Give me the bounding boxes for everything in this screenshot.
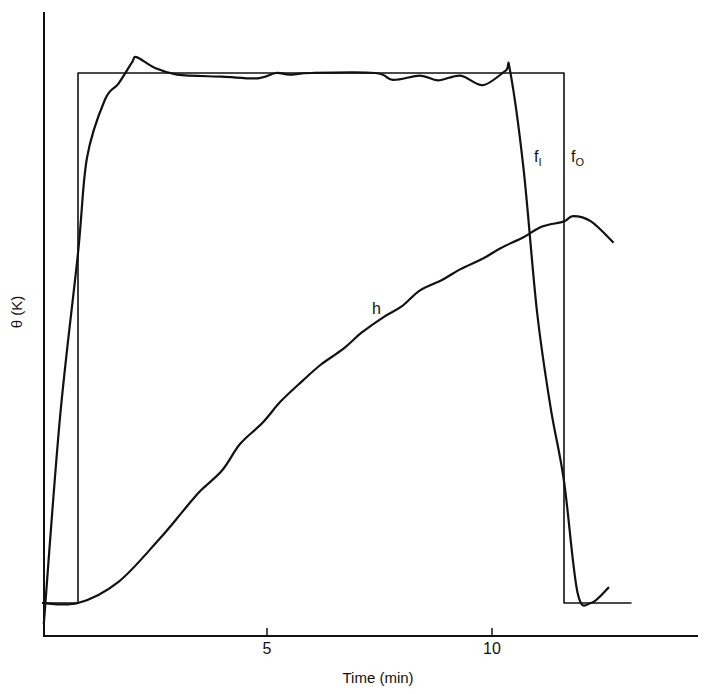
x-tick-label-10: 10 xyxy=(483,640,501,658)
y-axis-label: θ (K) xyxy=(8,296,25,329)
series-group xyxy=(42,57,632,624)
series-f-i xyxy=(44,57,609,624)
series-f-o xyxy=(42,73,632,603)
series-h xyxy=(42,216,614,604)
x-axis-ticks xyxy=(267,628,492,636)
series-label-f-o-sub: O xyxy=(575,156,584,168)
series-label-f-i: fI xyxy=(534,148,542,168)
x-tick-label-5: 5 xyxy=(263,640,272,658)
series-label-f-o: fO xyxy=(571,148,584,168)
x-axis-label: Time (min) xyxy=(342,669,413,686)
series-label-h: h xyxy=(372,300,381,318)
chart-plot-area xyxy=(0,0,711,694)
series-label-f-i-sub: I xyxy=(538,156,541,168)
